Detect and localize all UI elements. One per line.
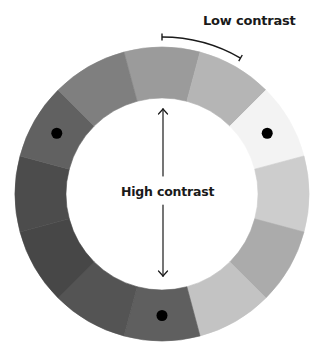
wheel-segment [255, 156, 309, 232]
wheel-segment [124, 47, 200, 101]
wheel-segment [15, 156, 69, 232]
color-wheel-diagram [0, 0, 325, 361]
high-contrast-label: High contrast [121, 184, 214, 199]
low-contrast-label: Low contrast [203, 13, 296, 28]
triad-dot-icon [262, 128, 273, 139]
triad-dot-icon [51, 128, 62, 139]
triad-dot-icon [157, 310, 168, 321]
